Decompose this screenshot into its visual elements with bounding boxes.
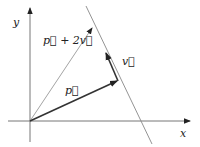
vector-v [106, 53, 118, 81]
vector-diagram: y x p⃗ + 2v⃗ p⃗ v⃗ [0, 0, 200, 147]
vector-v-label: v⃗ [122, 55, 135, 68]
parametric-line [86, 6, 152, 144]
vector-p-label: p⃗ [65, 84, 79, 97]
vector-p-plus-2v-label: p⃗ + 2v⃗ [43, 34, 93, 47]
y-axis-label: y [12, 16, 20, 29]
x-axis-label: x [180, 127, 187, 140]
